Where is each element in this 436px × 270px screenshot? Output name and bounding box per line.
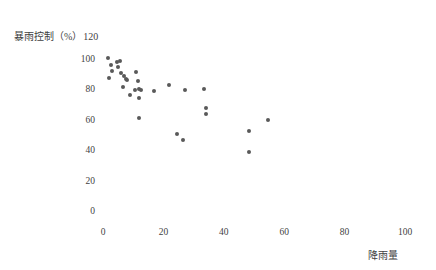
scatter-point: [109, 63, 113, 67]
scatter-point: [115, 60, 119, 64]
x-tick-label: 80: [330, 227, 360, 237]
scatter-point: [167, 83, 171, 87]
scatter-point: [110, 69, 114, 73]
y-tick-label: 40: [61, 145, 95, 155]
scatter-point: [137, 96, 141, 100]
scatter-point: [119, 71, 123, 75]
scatter-point: [175, 132, 179, 136]
scatter-point: [121, 85, 125, 89]
scatter-point: [134, 70, 138, 74]
scatter-point: [116, 65, 120, 69]
x-tick-label: 40: [209, 227, 239, 237]
scatter-point: [124, 77, 128, 81]
x-axis-label: 降雨量: [368, 247, 398, 262]
y-tick-label: 80: [61, 84, 95, 94]
y-axis-label-text: 暴雨控制（%）: [14, 31, 82, 42]
scatter-point: [128, 93, 132, 97]
scatter-point: [139, 88, 143, 92]
y-axis-label: 暴雨控制（%）120: [14, 28, 98, 43]
scatter-point: [107, 76, 111, 80]
scatter-point: [125, 78, 129, 82]
scatter-point: [133, 88, 137, 92]
x-tick-label: 60: [269, 227, 299, 237]
x-tick-label: 0: [88, 227, 118, 237]
scatter-point: [136, 79, 140, 83]
scatter-point: [137, 87, 141, 91]
y-tick-label: 100: [61, 54, 95, 64]
scatter-point: [152, 89, 156, 93]
scatter-point: [202, 87, 206, 91]
scatter-point: [106, 56, 110, 60]
scatter-point: [204, 106, 208, 110]
x-tick-label: 20: [148, 227, 178, 237]
scatter-point: [204, 112, 208, 116]
scatter-chart-figure: 暴雨控制（%）120 降雨量 020406080100 020406080100: [0, 0, 436, 270]
y-tick-label: 60: [61, 115, 95, 125]
y-tick-label: 20: [61, 176, 95, 186]
scatter-point: [247, 129, 251, 133]
scatter-point: [118, 59, 122, 63]
scatter-point: [122, 74, 126, 78]
y-tick-label: 0: [61, 206, 95, 216]
scatter-point: [137, 116, 141, 120]
x-tick-label: 100: [390, 227, 420, 237]
y-axis-top-value: 120: [83, 31, 98, 42]
scatter-point: [183, 88, 187, 92]
scatter-point: [247, 150, 251, 154]
scatter-point: [266, 118, 270, 122]
scatter-point: [181, 138, 185, 142]
